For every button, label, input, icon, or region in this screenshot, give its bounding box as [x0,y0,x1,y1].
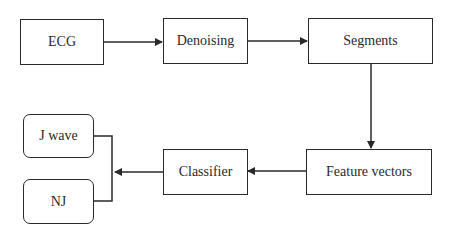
ecg-label: ECG [48,34,76,50]
denoising-label: Denoising [177,33,235,49]
nj-node: NJ [23,179,94,224]
denoising-node: Denoising [163,18,248,64]
segments-label: Segments [343,33,397,49]
j-wave-label: J wave [39,128,78,144]
feature-vectors-label: Feature vectors [326,164,412,180]
segments-node: Segments [308,18,433,64]
ecg-node: ECG [20,19,104,65]
nj-label: NJ [51,194,67,210]
feature-vectors-node: Feature vectors [306,149,432,195]
output-bracket [93,136,112,201]
j-wave-node: J wave [23,114,94,158]
classifier-label: Classifier [179,164,233,180]
classifier-node: Classifier [163,149,248,195]
